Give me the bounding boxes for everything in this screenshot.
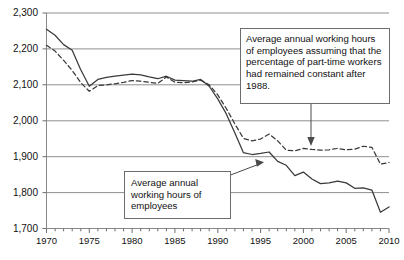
x-axis-tick-label: 1995 <box>241 236 281 246</box>
y-axis-tick-label: 1,800 <box>0 188 38 198</box>
y-axis-tick-label: 2,100 <box>0 80 38 90</box>
x-axis-tick-label: 1980 <box>112 236 152 246</box>
x-axis-tick-label: 1985 <box>155 236 195 246</box>
x-axis-tick-label: 2010 <box>369 236 404 246</box>
y-axis-tick-label: 2,200 <box>0 44 38 54</box>
x-axis-tick-label: 2005 <box>326 236 366 246</box>
y-axis-tick-label: 1,900 <box>0 152 38 162</box>
actual-callout-arrow-shaft <box>228 165 258 177</box>
x-axis-tick-label: 1975 <box>69 236 109 246</box>
y-axis-tick-label: 2,300 <box>0 8 38 18</box>
x-axis-tick-label: 2000 <box>283 236 323 246</box>
x-axis-tick-label: 1990 <box>198 236 238 246</box>
assumed-series-callout: Average annual working hours of employee… <box>240 28 390 104</box>
y-axis-tick-label: 1,700 <box>0 224 38 234</box>
annotation-arrows-group <box>228 104 315 176</box>
actual-series-callout: Average annual working hours of employee… <box>124 171 231 219</box>
x-axis-tick-label: 1970 <box>27 236 67 246</box>
x-tick-marks-group <box>47 229 390 234</box>
y-axis-tick-label: 2,000 <box>0 116 38 126</box>
assumed-callout-arrow-head <box>307 137 314 146</box>
